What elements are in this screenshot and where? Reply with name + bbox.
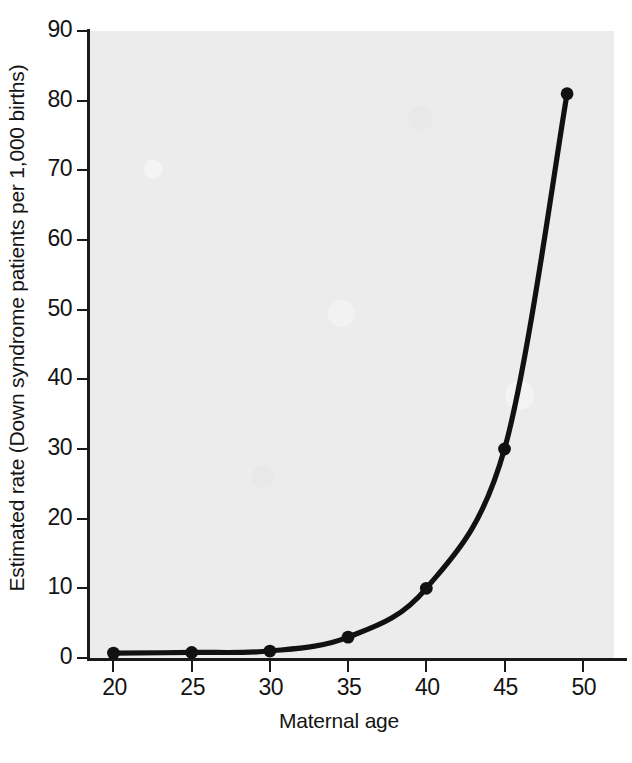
x-tick-label: 20 (79, 676, 149, 699)
y-tick-mark (77, 518, 88, 520)
x-axis-line (87, 658, 627, 661)
x-tick-mark (269, 660, 271, 672)
x-tick-mark (347, 660, 349, 672)
y-tick-mark (77, 448, 88, 450)
x-tick-label: 50 (549, 676, 619, 699)
y-tick-mark (77, 169, 88, 171)
x-tick-label: 30 (236, 676, 306, 699)
y-tick-mark (77, 309, 88, 311)
plot-area (90, 31, 614, 659)
y-tick-mark (77, 30, 88, 32)
y-tick-mark (77, 378, 88, 380)
y-axis-line (87, 29, 90, 661)
y-tick-label: 0 (24, 645, 72, 668)
x-tick-mark (582, 660, 584, 672)
x-tick-label: 25 (158, 676, 228, 699)
x-tick-label: 40 (392, 676, 462, 699)
x-tick-label: 35 (314, 676, 384, 699)
x-tick-mark (112, 660, 114, 672)
x-tick-mark (191, 660, 193, 672)
y-axis-title: Estimated rate (Down syndrome patients p… (0, 8, 34, 648)
chart-figure: 0102030405060708090 20253035404550 Estim… (0, 0, 632, 763)
x-tick-mark (425, 660, 427, 672)
y-tick-mark (77, 239, 88, 241)
y-tick-mark (77, 100, 88, 102)
x-tick-mark (504, 660, 506, 672)
x-axis-title: Maternal age (89, 709, 589, 733)
x-tick-label: 45 (471, 676, 541, 699)
y-tick-mark (77, 587, 88, 589)
y-tick-mark (77, 657, 88, 659)
